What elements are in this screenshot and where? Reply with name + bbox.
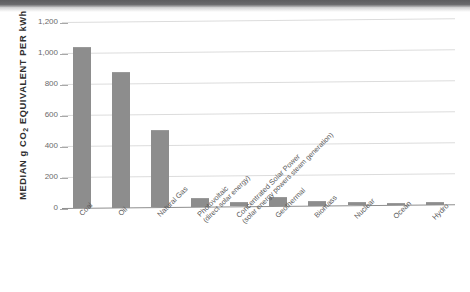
gridline	[62, 49, 455, 54]
gridline	[62, 18, 455, 23]
bar	[151, 130, 169, 207]
bar	[112, 72, 130, 208]
plot-area	[62, 22, 455, 208]
y-axis-tick-labels: 02004006008001,0001,200	[14, 22, 58, 208]
bar	[73, 47, 91, 208]
y-tick-label: 800	[18, 79, 58, 88]
y-tick-label: 1,000	[18, 48, 58, 57]
x-axis-category-labels: CoalOilNatural GasPhotovoltaic(direct so…	[62, 210, 455, 292]
y-tick-label: 200	[18, 172, 58, 181]
y-tick-label: 1,200	[18, 17, 58, 26]
y-tick-label: 600	[18, 110, 58, 119]
bar-chart-figure: MEDIAN g CO2 EQUIVALENT PER kWh 02004006…	[0, 0, 470, 292]
y-tick-label: 400	[18, 141, 58, 150]
y-tick-label: 0	[18, 203, 58, 212]
